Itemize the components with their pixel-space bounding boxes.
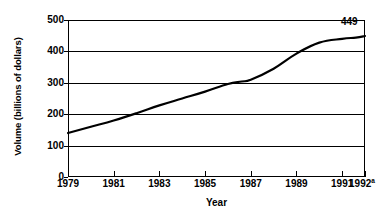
x-axis-tick-1992 xyxy=(365,171,366,177)
series-path-volume xyxy=(68,36,365,133)
series-line-volume xyxy=(68,20,365,177)
plot-area xyxy=(68,20,365,177)
y-axis-tick-label-400: 400 xyxy=(28,46,64,56)
y-axis-tick-label-500: 500 xyxy=(28,15,64,25)
y-axis-tick-label-300: 300 xyxy=(28,78,64,88)
x-axis-tick-labels: 19791981198319851987198919911992a xyxy=(0,178,390,194)
x-axis-title: Year xyxy=(68,197,365,208)
y-axis-tick-label-200: 200 xyxy=(28,109,64,119)
x-axis-tick-footnote-marker: a xyxy=(371,177,375,184)
y-axis-title: Volume (billions of dollars) xyxy=(12,17,23,177)
y-axis-tick-label-100: 100 xyxy=(28,141,64,151)
x-axis-tick-label-1992: 1992a xyxy=(332,178,390,190)
line-chart: Volume (billions of dollars) 01002003004… xyxy=(0,0,390,218)
data-label-end-value: 449 xyxy=(341,17,358,27)
